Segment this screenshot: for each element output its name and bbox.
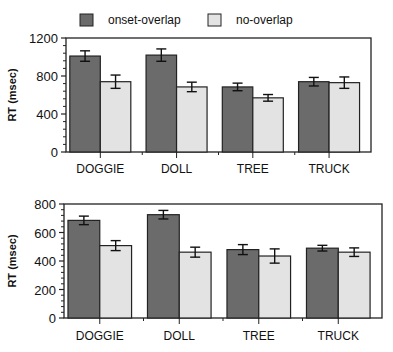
legend-label-0: onset-overlap: [108, 13, 181, 27]
y-tick-label: 0: [49, 311, 56, 326]
bar-onset-overlap-doggie: [70, 56, 101, 152]
x-category-label: DOGGIE: [76, 162, 124, 176]
y-tick-label: 800: [36, 69, 58, 84]
chart-top: 04008001200RT (msec)DOGGIEDOLLTREETRUCK: [6, 31, 371, 176]
y-tick-label: 600: [34, 226, 56, 241]
bar-onset-overlap-tree: [227, 250, 259, 318]
y-axis-label: RT (msec): [6, 68, 18, 122]
bar-no-overlap-doll: [179, 252, 211, 318]
x-category-label: TRUCK: [318, 329, 359, 343]
bar-no-overlap-tree: [253, 98, 284, 152]
chart-bottom: 0200400600800RT (msec)DOGGIEDOLLTREETRUC…: [6, 197, 382, 343]
bar-onset-overlap-truck: [306, 248, 338, 318]
bar-onset-overlap-tree: [222, 87, 253, 152]
x-category-label: TREE: [243, 329, 275, 343]
y-tick-label: 800: [34, 197, 56, 212]
bar-no-overlap-doggie: [100, 82, 131, 152]
legend-label-1: no-overlap: [236, 13, 293, 27]
x-category-label: DOLL: [161, 162, 193, 176]
x-category-label: TREE: [237, 162, 269, 176]
bar-onset-overlap-doll: [146, 55, 177, 152]
figure: onset-overlapno-overlap 04008001200RT (m…: [0, 0, 393, 352]
bar-onset-overlap-doggie: [68, 220, 100, 318]
bar-onset-overlap-truck: [299, 82, 330, 152]
y-tick-label: 400: [34, 254, 56, 269]
legend-swatch-1: [208, 14, 221, 26]
bar-no-overlap-doggie: [100, 246, 132, 318]
y-tick-label: 200: [34, 283, 56, 298]
y-tick-label: 1200: [29, 31, 58, 46]
y-tick-label: 0: [51, 145, 58, 160]
bar-no-overlap-tree: [259, 256, 291, 318]
x-category-label: DOGGIE: [76, 329, 124, 343]
legend-swatch-0: [80, 14, 93, 26]
bar-no-overlap-truck: [338, 252, 370, 318]
bar-onset-overlap-doll: [147, 215, 179, 318]
y-axis-label: RT (msec): [6, 234, 18, 288]
bar-no-overlap-truck: [329, 83, 360, 152]
x-category-label: TRUCK: [308, 162, 349, 176]
x-category-label: DOLL: [164, 329, 196, 343]
bar-no-overlap-doll: [177, 87, 208, 152]
y-tick-label: 400: [36, 107, 58, 122]
legend: onset-overlapno-overlap: [80, 13, 293, 27]
